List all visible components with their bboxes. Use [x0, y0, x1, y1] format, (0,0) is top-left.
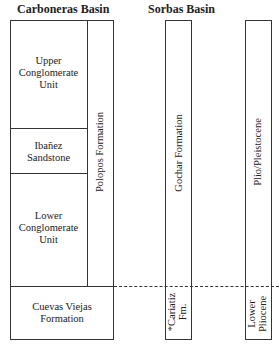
lower-pliocene-label: Lower Pliocene: [246, 291, 270, 337]
cariatiz-formation-label: *Cariatiz Fm.: [166, 289, 190, 335]
ibanez-sandstone-label: Ibañez Sandstone: [10, 140, 87, 164]
carboneras-basin-header: Carboneras Basin: [17, 2, 109, 17]
label-line: Formation: [10, 313, 114, 325]
label-line: Cuevas Viejas: [10, 301, 114, 313]
label-line: Unit: [10, 79, 87, 91]
correlation-dashed-line: [114, 286, 279, 287]
upper-conglomerate-unit-label: Upper Conglomerate Unit: [10, 55, 87, 91]
label-line: Unit: [10, 234, 87, 246]
upper-ibanez-boundary: [10, 128, 87, 129]
lower-conglomerate-unit-label: Lower Conglomerate Unit: [10, 210, 87, 246]
label-line: Lower: [246, 291, 257, 337]
gochar-formation-label: Gochar Formation: [173, 103, 185, 203]
label-line: Sandstone: [10, 152, 87, 164]
label-line: Lower: [10, 210, 87, 222]
label-line: Upper: [10, 55, 87, 67]
ibanez-lower-boundary: [10, 173, 87, 174]
cuevas-viejas-formation-label: Cuevas Viejas Formation: [10, 301, 114, 325]
carboneras-base-boundary: [10, 286, 114, 287]
label-line: Pliocene: [257, 291, 268, 337]
sorbas-basin-header: Sorbas Basin: [148, 2, 215, 17]
plio-pleistocene-label: Plio/Pleistocene: [252, 102, 264, 202]
label-line: *Cariatiz: [166, 289, 177, 335]
label-line: Ibañez: [10, 140, 87, 152]
label-line: Fm.: [177, 289, 188, 335]
label-line: Conglomerate: [10, 67, 87, 79]
polopos-formation-label: Polopos Formation: [94, 102, 106, 202]
polopos-divider: [87, 20, 88, 286]
label-line: Conglomerate: [10, 222, 87, 234]
